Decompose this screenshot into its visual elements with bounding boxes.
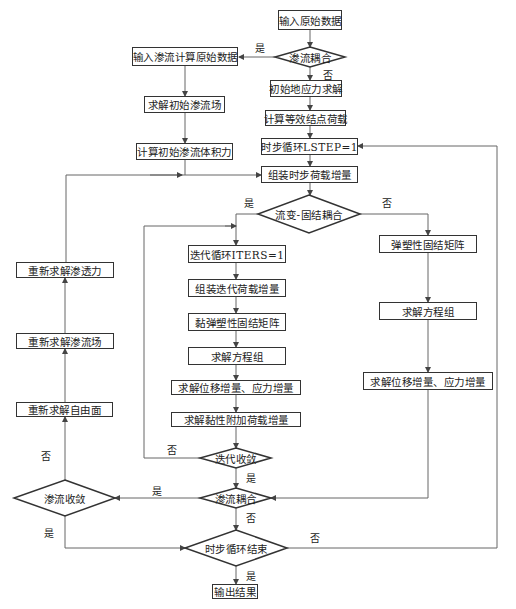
node-label: 求解方程组 xyxy=(211,349,264,364)
label-no-seepage-bottom: 否 xyxy=(246,510,256,525)
label-yes-seepage-bottom: 是 xyxy=(152,483,162,498)
label-yes-time-loop: 是 xyxy=(246,568,256,583)
node-solve-disp-stress-right: 求解位移增量、应力增量 xyxy=(363,372,493,390)
label-no-time-loop: 否 xyxy=(310,530,320,545)
node-label: 求解方程组 xyxy=(402,304,455,319)
node-input-raw-data: 输入原始数据 xyxy=(278,10,342,30)
node-iter-loop-start: 迭代循环ITERS=1 xyxy=(188,245,286,263)
node-solve-equations-right: 求解方程组 xyxy=(379,302,477,320)
label-no-iter: 否 xyxy=(167,442,177,457)
decision-iteration-converge: 迭代收敛 xyxy=(200,448,271,468)
node-time-loop-start: 时步循环LSTEP=1 xyxy=(261,138,358,155)
node-solve-disp-stress-mid: 求解位移增量、应力增量 xyxy=(171,380,301,395)
decision-label: 渗流耦合 xyxy=(289,50,331,65)
label-no-seepage-top: 否 xyxy=(323,67,333,82)
node-solve-initial-seepage-field: 求解初始渗流场 xyxy=(144,96,225,113)
node-label: 计算等效结点荷载 xyxy=(264,111,348,126)
node-label: 组装迭代荷载增量 xyxy=(195,281,279,296)
node-label: 重新求解渗流场 xyxy=(28,334,102,349)
decision-rheo-consolidation-coupling: 流变-固结耦合 xyxy=(258,195,360,233)
decision-time-loop-end: 时步循环结束 xyxy=(185,530,287,566)
label-no-seepage-converge: 否 xyxy=(41,448,51,463)
decision-label: 渗流收敛 xyxy=(44,491,86,506)
node-solve-equations-mid: 求解方程组 xyxy=(188,347,286,365)
node-label: 求解位移增量、应力增量 xyxy=(370,374,486,389)
decision-label: 流变-固结耦合 xyxy=(275,207,342,222)
node-calc-initial-seepage-body-force: 计算初始渗流体积力 xyxy=(136,143,233,160)
node-elastoplastic-matrix: 弹塑性固结矩阵 xyxy=(379,235,477,253)
node-resolve-seepage-field: 重新求解渗流场 xyxy=(16,333,114,349)
node-input-seepage-raw-data: 输入渗流计算原始数据 xyxy=(132,47,238,66)
node-label: 迭代循环ITERS=1 xyxy=(190,247,285,262)
node-output-result: 输出结果 xyxy=(212,584,258,599)
label-no-rheo: 否 xyxy=(382,195,392,210)
node-label: 弹塑性固结矩阵 xyxy=(391,237,465,252)
node-resolve-free-surface: 重新求解自由面 xyxy=(16,402,113,417)
node-assemble-iter-load: 组装迭代荷载增量 xyxy=(188,279,286,297)
node-label: 求解黏性附加荷载增量 xyxy=(184,412,289,427)
node-label: 输入原始数据 xyxy=(279,13,342,28)
label-yes-iter: 是 xyxy=(246,470,256,485)
node-assemble-time-load: 组装时步荷载增量 xyxy=(261,166,358,183)
decision-seepage-coupling-bottom: 渗流耦合 xyxy=(200,488,271,508)
node-visco-elastoplastic-matrix: 黏弹塑性固结矩阵 xyxy=(188,313,286,331)
node-label: 求解位移增量、应力增量 xyxy=(178,380,294,395)
node-label: 时步循环LSTEP=1 xyxy=(261,139,358,154)
node-solve-viscous-load: 求解黏性附加荷载增量 xyxy=(171,412,301,427)
decision-seepage-coupling-top: 渗流耦合 xyxy=(275,47,345,67)
label-yes-seepage-top: 是 xyxy=(255,40,265,55)
node-label: 求解初始渗流场 xyxy=(148,97,222,112)
node-resolve-seepage-force: 重新求解渗透力 xyxy=(16,262,114,278)
node-label: 重新求解自由面 xyxy=(28,402,102,417)
node-label: 初始地应力求解 xyxy=(269,81,343,96)
node-label: 组装时步荷载增量 xyxy=(268,167,352,182)
node-initial-ground-stress: 初始地应力求解 xyxy=(270,80,342,97)
node-label: 黏弹塑性固结矩阵 xyxy=(195,315,279,330)
node-label: 计算初始渗流体积力 xyxy=(137,144,232,159)
node-equivalent-node-load: 计算等效结点荷载 xyxy=(265,110,346,126)
decision-label: 时步循环结束 xyxy=(205,541,268,556)
decision-label: 迭代收敛 xyxy=(215,451,257,466)
label-yes-seepage-converge: 是 xyxy=(44,525,54,540)
node-label: 输入渗流计算原始数据 xyxy=(133,49,238,64)
node-label: 重新求解渗透力 xyxy=(28,263,102,278)
label-yes-rheo: 是 xyxy=(244,195,254,210)
node-label: 输出结果 xyxy=(214,584,256,599)
decision-label: 渗流耦合 xyxy=(215,491,257,506)
decision-seepage-converge: 渗流收敛 xyxy=(14,480,115,516)
